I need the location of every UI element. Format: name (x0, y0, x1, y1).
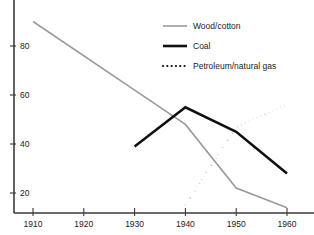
x-tick-label: 1930 (125, 219, 144, 229)
legend-item-label: Wood/cotton (193, 21, 241, 31)
y-tick-label: 40 (20, 139, 30, 149)
series-line-coal (135, 107, 287, 173)
series-line-petroleum-natural-gas (185, 105, 287, 205)
x-tick-label: 1960 (278, 219, 297, 229)
y-tick-label: 20 (20, 188, 30, 198)
chart-legend: Wood/cottonCoalPetroleum/natural gas (163, 21, 276, 71)
y-tick-label: 60 (20, 90, 30, 100)
x-tick-label: 1920 (74, 219, 93, 229)
y-axis-ticks: 20406080 (10, 41, 30, 198)
line-chart: 20406080 191019201930194019501960 Wood/c… (0, 0, 314, 235)
x-axis-ticks: 191019201930194019501960 (24, 208, 297, 229)
y-tick-label: 80 (20, 41, 30, 51)
chart-container: 20406080 191019201930194019501960 Wood/c… (0, 0, 314, 235)
legend-item-label: Coal (193, 41, 211, 51)
series-line-wood-cotton (33, 22, 287, 208)
legend-item-label: Petroleum/natural gas (193, 61, 276, 71)
series-group (33, 22, 287, 208)
x-tick-label: 1940 (176, 219, 195, 229)
x-tick-label: 1950 (227, 219, 246, 229)
x-tick-label: 1910 (24, 219, 43, 229)
